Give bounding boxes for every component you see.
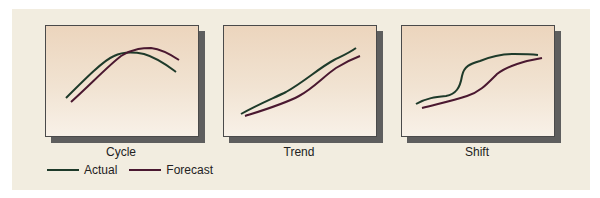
forecast-line	[422, 58, 542, 108]
legend: Actual Forecast	[47, 163, 225, 177]
legend-item-actual: Actual	[47, 163, 117, 177]
chart-shift	[401, 25, 555, 137]
cycle-plot	[46, 26, 198, 136]
chart-title-trend: Trend	[223, 145, 375, 159]
chart-title-shift: Shift	[401, 145, 553, 159]
actual-line	[241, 48, 356, 114]
chart-trend	[223, 25, 377, 137]
trend-plot	[224, 26, 376, 136]
forecast-line	[245, 56, 360, 116]
legend-item-forecast: Forecast	[129, 163, 213, 177]
actual-line	[416, 54, 538, 104]
chart-cycle	[45, 25, 199, 137]
chart-title-cycle: Cycle	[45, 145, 197, 159]
forecast-swatch-icon	[129, 169, 161, 171]
legend-label-forecast: Forecast	[166, 163, 213, 177]
shift-plot	[402, 26, 554, 136]
legend-label-actual: Actual	[84, 163, 117, 177]
actual-swatch-icon	[47, 169, 79, 171]
forecast-line	[71, 48, 179, 102]
